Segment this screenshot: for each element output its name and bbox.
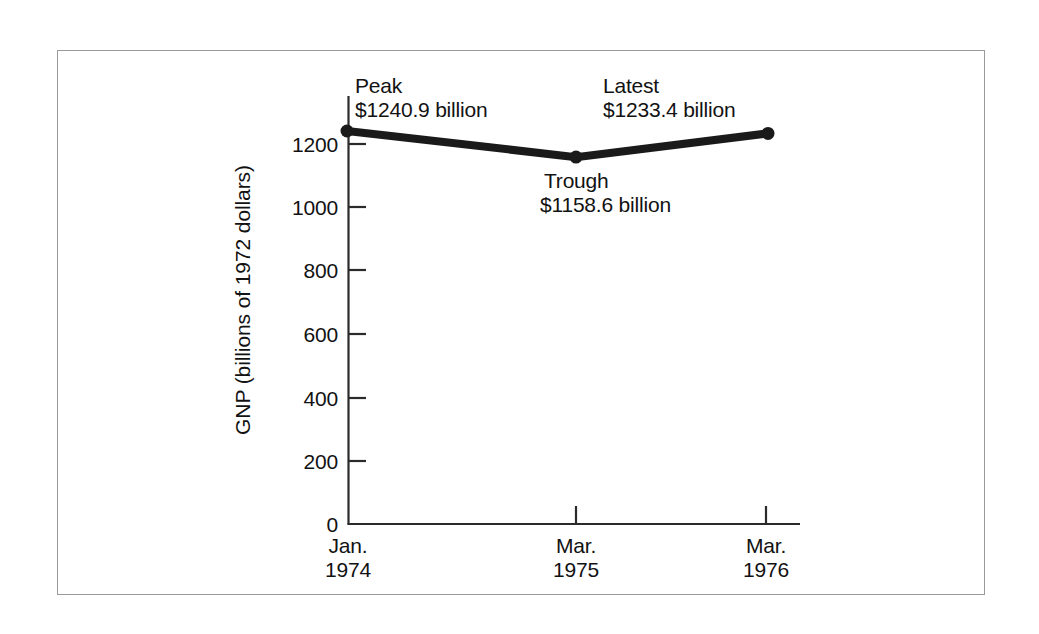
figure-frame xyxy=(57,50,985,595)
